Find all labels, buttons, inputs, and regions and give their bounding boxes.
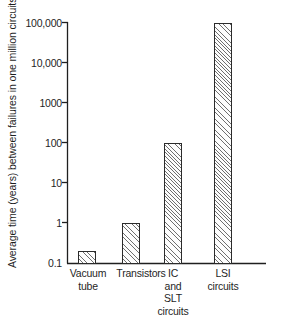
bar-vacuum-tube [78, 251, 96, 264]
x-tick-label-vacuum-tube: Vacuum tube [62, 267, 114, 292]
x-tick-label-ic-and-slt-circuits: IC and SLT circuits [150, 267, 196, 317]
x-tick-label-lsi-circuits: LSI circuits [196, 267, 250, 292]
bar-chart: Average time (years) between failures in… [0, 0, 281, 318]
bar-transistors [122, 223, 140, 264]
bar-lsi-circuits [214, 23, 232, 264]
bar-ic-and-slt-circuits [164, 143, 182, 264]
